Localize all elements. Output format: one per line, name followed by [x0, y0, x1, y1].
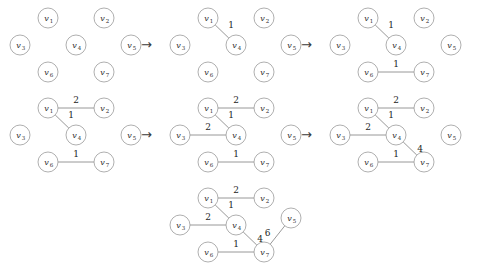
node-subscript-v3: 3	[182, 45, 186, 51]
node-subscript-v5: 5	[293, 218, 297, 224]
node-label-v4: v	[232, 221, 237, 230]
node-subscript-v7: 7	[266, 252, 270, 258]
graph-step-3: 11v1v2v3v4v5v6v7	[320, 0, 479, 95]
node-subscript-v5: 5	[293, 135, 297, 141]
node-v4: v4	[226, 125, 246, 145]
node-label-v3: v	[16, 41, 21, 50]
node-v1: v1	[358, 98, 378, 118]
edge-weight-v3-v4: 2	[205, 122, 211, 132]
edge-v1-v4	[375, 115, 389, 128]
node-label-v7: v	[100, 68, 105, 77]
node-subscript-v4: 4	[238, 135, 242, 141]
edge-v4-v7	[403, 142, 417, 155]
node-label-v2: v	[420, 104, 425, 113]
node-subscript-v7: 7	[106, 162, 110, 168]
node-label-v6: v	[204, 158, 209, 167]
node-v1: v1	[198, 188, 218, 208]
node-v3: v3	[330, 35, 350, 55]
node-subscript-v6: 6	[370, 162, 374, 168]
edge-weight-v6-v7: 1	[393, 149, 399, 159]
node-label-v6: v	[44, 68, 49, 77]
node-label-v6: v	[44, 158, 49, 167]
node-subscript-v2: 2	[266, 198, 270, 204]
node-v3: v3	[10, 125, 30, 145]
node-label-v3: v	[16, 131, 21, 140]
node-subscript-v6: 6	[210, 252, 214, 258]
edge-v1-v4	[215, 205, 229, 218]
node-label-v5: v	[287, 214, 292, 223]
node-v3: v3	[10, 35, 30, 55]
node-label-v4: v	[72, 131, 77, 140]
node-label-v7: v	[260, 158, 265, 167]
node-label-v4: v	[232, 131, 237, 140]
node-v5: v5	[121, 35, 141, 55]
node-label-v6: v	[364, 158, 369, 167]
node-v2: v2	[414, 98, 434, 118]
node-v1: v1	[198, 98, 218, 118]
edge-weight-v3-v4: 2	[205, 212, 211, 222]
node-label-v4: v	[392, 41, 397, 50]
node-label-v5: v	[447, 131, 452, 140]
edge-weight-v1-v4: 1	[68, 110, 74, 120]
node-v7: v7	[254, 152, 274, 172]
edge-v1-v4	[215, 25, 229, 38]
edge-weight-v1-v2: 2	[233, 185, 239, 195]
node-label-v4: v	[72, 41, 77, 50]
node-v2: v2	[254, 98, 274, 118]
node-v3: v3	[170, 215, 190, 235]
node-v7: v7	[414, 152, 434, 172]
node-v1: v1	[358, 8, 378, 28]
node-label-v5: v	[447, 41, 452, 50]
node-label-v4: v	[232, 41, 237, 50]
edge-weight-v1-v4: 1	[228, 110, 234, 120]
node-label-v5: v	[287, 41, 292, 50]
node-subscript-v5: 5	[133, 45, 137, 51]
figure-canvas: v1v2v3v4v5v6v71v1v2v3v4v5v6v711v1v2v3v4v…	[0, 0, 479, 273]
graph-step-5: 2121v1v2v3v4v5v6v7	[160, 90, 320, 185]
graph-panel-step-2: 1v1v2v3v4v5v6v7	[160, 0, 320, 95]
node-label-v1: v	[364, 104, 369, 113]
node-v5: v5	[441, 125, 461, 145]
node-v2: v2	[254, 8, 274, 28]
edge-v1-v4	[215, 115, 229, 128]
node-subscript-v4: 4	[238, 45, 242, 51]
edge-weight-v1-v4: 1	[228, 20, 234, 30]
node-subscript-v2: 2	[266, 18, 270, 24]
graph-panel-step-5: 2121v1v2v3v4v5v6v7	[160, 90, 320, 185]
node-v6: v6	[358, 152, 378, 172]
node-v2: v2	[254, 188, 274, 208]
node-v2: v2	[414, 8, 434, 28]
node-label-v3: v	[176, 131, 181, 140]
node-label-v7: v	[420, 158, 425, 167]
node-v2: v2	[94, 8, 114, 28]
edge-weight-v6-v7: 1	[73, 149, 79, 159]
graph-panel-step-4: 211v1v2v3v4v5v6v7	[0, 90, 160, 185]
node-label-v7: v	[100, 158, 105, 167]
node-label-v2: v	[100, 14, 105, 23]
node-label-v5: v	[127, 41, 132, 50]
arrow-step2-step3-icon: →	[301, 38, 312, 51]
node-label-v2: v	[260, 14, 265, 23]
arrow-step4-step5-icon: →	[141, 128, 152, 141]
edge-weight-v6-v7: 1	[233, 239, 239, 249]
node-subscript-v7: 7	[426, 162, 430, 168]
arrow-step1-step2-icon: →	[141, 38, 152, 51]
node-subscript-v6: 6	[210, 72, 214, 78]
node-label-v1: v	[204, 104, 209, 113]
node-v7: v7	[94, 152, 114, 172]
node-subscript-v3: 3	[22, 135, 26, 141]
node-v6: v6	[198, 62, 218, 82]
node-label-v2: v	[100, 104, 105, 113]
graph-step-7: 212461v1v2v3v4v5v6v7	[160, 180, 320, 273]
node-subscript-v4: 4	[78, 135, 82, 141]
node-label-v6: v	[364, 68, 369, 77]
node-label-v2: v	[260, 104, 265, 113]
graph-panel-step-3: 11v1v2v3v4v5v6v7	[320, 0, 479, 95]
node-v4: v4	[226, 215, 246, 235]
edge-v1-v4	[55, 115, 69, 128]
node-v5: v5	[281, 208, 301, 228]
node-label-v3: v	[176, 221, 181, 230]
edge-weight-v1-v2: 2	[233, 95, 239, 105]
node-v1: v1	[38, 98, 58, 118]
edge-weight-v5-v7: 6	[265, 228, 271, 238]
